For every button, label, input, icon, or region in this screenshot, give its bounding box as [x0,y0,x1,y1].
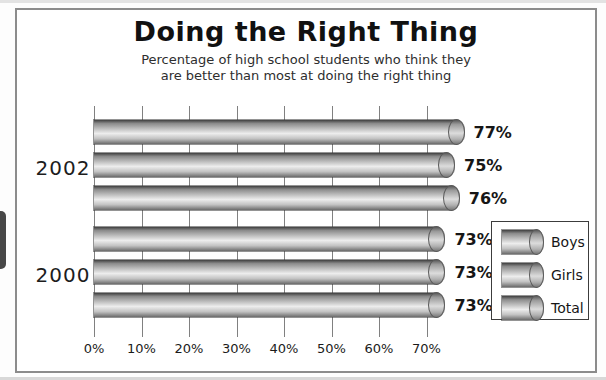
x-tick-label: 40% [262,341,306,356]
scan-edge-top [0,0,606,3]
legend-swatch-girls [502,263,543,287]
x-tick-label: 0% [72,341,116,356]
x-tick-label: 70% [405,341,449,356]
value-label-2002-girls: 75% [464,156,502,175]
legend-swatch-boys [502,230,543,254]
group-label-2000: 2000 [27,263,99,287]
page: Doing the Right Thing Percentage of high… [0,0,606,380]
bar-2002-total [94,186,459,210]
x-tick-label: 30% [215,341,259,356]
value-label-2000-boys: 73% [454,230,492,249]
x-tick-label: 60% [357,341,401,356]
bar-2002-boys [94,120,464,144]
chart-subtitle-line1: Percentage of high school students who t… [17,52,595,68]
bar-2002-girls [94,153,454,177]
chart-title: Doing the Right Thing [17,16,595,47]
legend-label-total: Total [551,300,584,316]
chart-subtitle: Percentage of high school students who t… [17,52,595,84]
legend-swatch-total [502,296,543,320]
value-label-2000-total: 73% [454,296,492,315]
bar-2000-total [94,293,444,317]
page-tab [0,211,6,269]
chart-subtitle-line2: are better than most at doing the right … [17,68,595,84]
x-tick-label: 50% [310,341,354,356]
x-tick-label: 10% [120,341,164,356]
value-label-2000-girls: 73% [454,263,492,282]
legend-label-girls: Girls [551,267,583,283]
legend-label-boys: Boys [551,234,585,250]
value-label-2002-boys: 77% [474,123,512,142]
chart-frame: Doing the Right Thing Percentage of high… [15,8,597,373]
group-label-2002: 2002 [27,156,99,180]
legend: BoysGirlsTotal [491,221,589,320]
bar-2000-boys [94,227,444,251]
x-tick-label: 20% [167,341,211,356]
value-label-2002-total: 76% [469,189,507,208]
bar-2000-girls [94,260,444,284]
